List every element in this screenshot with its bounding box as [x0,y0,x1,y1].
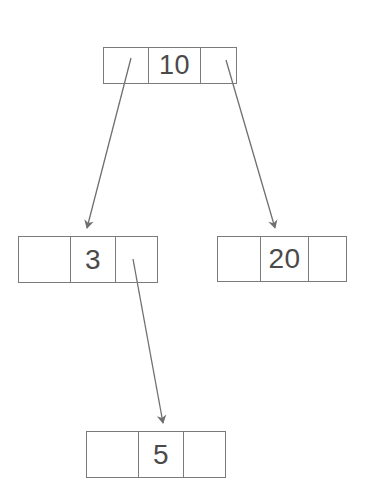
edge-root-to-right [226,60,275,228]
tree-node-grandchild[interactable]: 5 [86,431,226,478]
node-right-right-pointer-cell [309,237,346,281]
node-right-left-pointer-cell [218,237,261,281]
node-grandchild-left-pointer-cell [87,432,139,477]
tree-diagram-canvas: 10 3 20 5 [0,0,365,504]
edge-left-to-grandchild [133,259,163,423]
node-root-right-pointer-cell [201,48,236,83]
node-right-key-cell: 20 [261,237,309,281]
node-grandchild-right-pointer-cell [184,432,225,477]
node-root-left-pointer-cell [104,48,149,83]
node-grandchild-key-cell: 5 [139,432,184,477]
tree-node-root[interactable]: 10 [103,47,237,84]
node-root-key-cell: 10 [149,48,201,83]
tree-node-left-child[interactable]: 3 [18,236,158,283]
node-left-right-pointer-cell [116,237,157,282]
tree-node-right-child[interactable]: 20 [217,236,347,282]
node-left-key-cell: 3 [71,237,116,282]
node-left-left-pointer-cell [19,237,71,282]
